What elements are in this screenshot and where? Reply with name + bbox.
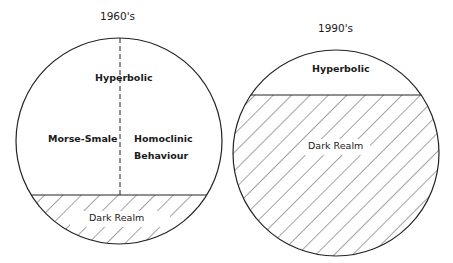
region-morse-smale: Morse-Smale: [48, 133, 118, 144]
title-1990s: 1990's: [318, 22, 353, 34]
region-hyperbolic-1960s: Hyperbolic: [95, 72, 153, 83]
region-homoclinic-line2: Behaviour: [134, 150, 188, 161]
region-dark-realm-1960s: Dark Realm: [89, 212, 144, 223]
title-1960s: 1960's: [100, 10, 135, 22]
region-hyperbolic-1990s: Hyperbolic: [312, 63, 370, 74]
region-dark-realm-1990s: Dark Realm: [308, 140, 363, 151]
region-homoclinic-line1: Homoclinic: [134, 133, 193, 144]
